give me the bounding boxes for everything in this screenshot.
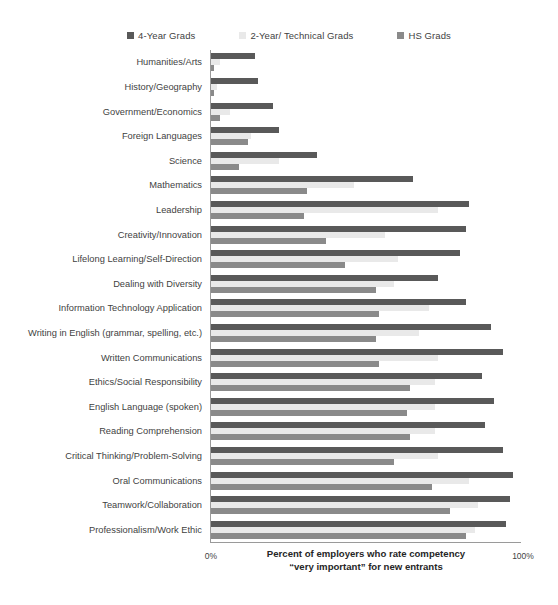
category-label-science: Science bbox=[2, 156, 202, 166]
category-label-leadership: Leadership bbox=[2, 205, 202, 215]
axis-max-label: 100% bbox=[508, 551, 538, 561]
category-label-critical-thinking-problem-solving: Critical Thinking/Problem-Solving bbox=[2, 451, 202, 461]
bar-history-geography-4-year-grads bbox=[211, 78, 258, 84]
legend-label-4-year-grads: 4-Year Grads bbox=[138, 30, 195, 41]
chart-legend: 4-Year Grads 2-Year/ Technical Grads HS … bbox=[0, 25, 558, 45]
category-label-teamwork-collaboration: Teamwork/Collaboration bbox=[2, 500, 202, 510]
category-axis: Humanities/ArtsHistory/GeographyGovernme… bbox=[0, 50, 208, 542]
bar-group-creativity-innovation bbox=[211, 226, 522, 244]
value-axis-labels: 0% 100% Percent of employers who rate co… bbox=[0, 547, 558, 587]
bar-english-language-spoken-hs-grads bbox=[211, 410, 407, 416]
axis-title-line-1: Percent of employers who rate competency bbox=[229, 547, 503, 560]
bar-group-teamwork-collaboration bbox=[211, 496, 522, 514]
bar-creativity-innovation-hs-grads bbox=[211, 238, 326, 244]
legend-label-2-year-technical-grads: 2-Year/ Technical Grads bbox=[250, 30, 353, 41]
category-label-writing-in-english-grammar-spelling-etc: Writing in English (grammar, spelling, e… bbox=[2, 328, 202, 338]
bar-group-ethics-social-responsibility bbox=[211, 373, 522, 391]
bar-group-dealing-with-diversity bbox=[211, 275, 522, 293]
legend-entry-hs-grads: HS Grads bbox=[397, 30, 450, 41]
bar-government-economics-hs-grads bbox=[211, 115, 220, 121]
bar-science-hs-grads bbox=[211, 164, 239, 170]
legend-swatch-2-year-technical-grads bbox=[239, 32, 246, 39]
bar-information-technology-application-hs-grads bbox=[211, 311, 379, 317]
plot-baseline bbox=[210, 542, 521, 543]
category-label-humanities-arts: Humanities/Arts bbox=[2, 57, 202, 67]
legend-swatch-hs-grads bbox=[397, 32, 404, 39]
bar-group-government-economics bbox=[211, 103, 522, 121]
bar-professionalism-work-ethic-hs-grads bbox=[211, 533, 466, 539]
category-label-mathematics: Mathematics bbox=[2, 180, 202, 190]
bar-critical-thinking-problem-solving-hs-grads bbox=[211, 459, 394, 465]
bar-group-information-technology-application bbox=[211, 299, 522, 317]
bar-teamwork-collaboration-hs-grads bbox=[211, 508, 450, 514]
bar-history-geography-hs-grads bbox=[211, 90, 214, 96]
bar-group-leadership bbox=[211, 201, 522, 219]
bar-lifelong-learning-self-direction-hs-grads bbox=[211, 262, 345, 268]
axis-min-label: 0% bbox=[198, 551, 224, 561]
bar-dealing-with-diversity-hs-grads bbox=[211, 287, 376, 293]
bar-group-reading-comprehension bbox=[211, 422, 522, 440]
category-label-ethics-social-responsibility: Ethics/Social Responsibility bbox=[2, 377, 202, 387]
bars-layer bbox=[211, 50, 522, 542]
category-label-written-communications: Written Communications bbox=[2, 353, 202, 363]
grouped-bar-chart: 4-Year Grads 2-Year/ Technical Grads HS … bbox=[0, 0, 558, 605]
plot-area: Humanities/ArtsHistory/GeographyGovernme… bbox=[0, 50, 558, 545]
category-label-english-language-spoken: English Language (spoken) bbox=[2, 402, 202, 412]
bar-ethics-social-responsibility-hs-grads bbox=[211, 385, 410, 391]
category-label-creativity-innovation: Creativity/Innovation bbox=[2, 230, 202, 240]
legend-swatch-4-year-grads bbox=[127, 32, 134, 39]
bar-group-oral-communications bbox=[211, 472, 522, 490]
category-label-information-technology-application: Information Technology Application bbox=[2, 303, 202, 313]
bar-group-science bbox=[211, 152, 522, 170]
bar-group-mathematics bbox=[211, 176, 522, 194]
bar-group-written-communications bbox=[211, 349, 522, 367]
category-label-foreign-languages: Foreign Languages bbox=[2, 131, 202, 141]
category-label-professionalism-work-ethic: Professionalism/Work Ethic bbox=[2, 525, 202, 535]
legend-entry-4-year-grads: 4-Year Grads bbox=[127, 30, 195, 41]
bar-written-communications-hs-grads bbox=[211, 361, 379, 367]
bar-reading-comprehension-hs-grads bbox=[211, 434, 410, 440]
bar-group-professionalism-work-ethic bbox=[211, 521, 522, 539]
category-label-history-geography: History/Geography bbox=[2, 82, 202, 92]
bar-oral-communications-hs-grads bbox=[211, 484, 432, 490]
bar-group-foreign-languages bbox=[211, 127, 522, 145]
category-label-reading-comprehension: Reading Comprehension bbox=[2, 426, 202, 436]
category-label-government-economics: Government/Economics bbox=[2, 107, 202, 117]
bar-group-critical-thinking-problem-solving bbox=[211, 447, 522, 465]
bar-group-english-language-spoken bbox=[211, 398, 522, 416]
category-label-lifelong-learning-self-direction: Lifelong Learning/Self-Direction bbox=[2, 254, 202, 264]
bar-group-humanities-arts bbox=[211, 53, 522, 71]
category-label-oral-communications: Oral Communications bbox=[2, 476, 202, 486]
bar-group-history-geography bbox=[211, 78, 522, 96]
bar-group-lifelong-learning-self-direction bbox=[211, 250, 522, 268]
bar-humanities-arts-hs-grads bbox=[211, 65, 214, 71]
axis-title-line-2: “very important” for new entrants bbox=[229, 560, 503, 573]
axis-title: Percent of employers who rate competency… bbox=[229, 547, 503, 573]
category-label-dealing-with-diversity: Dealing with Diversity bbox=[2, 279, 202, 289]
bar-group-writing-in-english-grammar-spelling-etc bbox=[211, 324, 522, 342]
legend-entry-2-year-technical-grads: 2-Year/ Technical Grads bbox=[239, 30, 353, 41]
bar-mathematics-hs-grads bbox=[211, 188, 307, 194]
bar-leadership-hs-grads bbox=[211, 213, 304, 219]
bar-writing-in-english-grammar-spelling-etc-hs-grads bbox=[211, 336, 376, 342]
legend-label-hs-grads: HS Grads bbox=[408, 30, 450, 41]
bar-foreign-languages-hs-grads bbox=[211, 139, 248, 145]
